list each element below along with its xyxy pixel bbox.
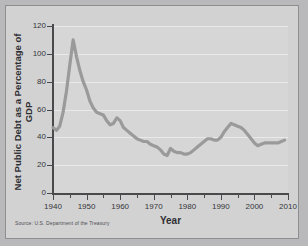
- chart-card: 020406080100120 194019501960197019801990…: [5, 5, 299, 239]
- y-axis-title: Net Public Debt as a Percentage of GDP: [12, 27, 34, 197]
- chart-page: 020406080100120 194019501960197019801990…: [0, 0, 308, 246]
- source-note: Source: U.S. Department of the Treasury: [15, 220, 110, 226]
- debt-line-series: [53, 40, 285, 156]
- data-series-layer: [6, 6, 300, 240]
